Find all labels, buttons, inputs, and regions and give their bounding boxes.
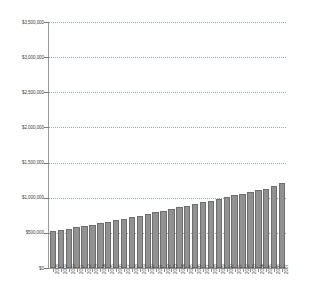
bar[interactable] [224,197,230,268]
x-axis-tick-label: 2030 [229,264,234,274]
x-axis-tick [132,268,133,272]
bar[interactable] [66,229,72,268]
x-axis-tick-label: 2008 [55,264,60,274]
bar[interactable] [208,201,214,268]
x-axis-tick [179,268,180,272]
x-axis-tick-label: 2024 [181,264,186,274]
x-axis-tick-label: 2015 [110,264,115,274]
bar[interactable] [89,225,95,268]
y-axis-tick [44,268,49,269]
x-axis-tick [171,268,172,272]
plot-area [49,22,286,268]
x-axis-tick [282,268,283,272]
x-axis-tick-label: 2019 [142,264,147,274]
x-axis-tick [69,268,70,272]
x-axis-tick [124,268,125,272]
x-axis-tick [116,268,117,272]
bar[interactable] [263,189,269,268]
x-axis-tick [258,268,259,272]
bar[interactable] [184,206,190,268]
x-axis-tick-label: 2034 [260,264,265,274]
x-axis-tick [85,268,86,272]
x-axis-tick-label: 2018 [134,264,139,274]
y-axis-tick [44,198,49,199]
x-axis-tick-label: 2028 [213,264,218,274]
y-axis-tick [44,92,49,93]
bar[interactable] [168,209,174,268]
bar[interactable] [50,231,56,268]
y-axis-tick-label: $1,000,000 [0,195,44,200]
x-axis-tick-label: 2010 [71,264,76,274]
bar[interactable] [239,194,245,268]
x-axis-tick [61,268,62,272]
x-axis-tick-label: 2020 [150,264,155,274]
bar[interactable] [255,190,261,268]
x-axis-tick [219,268,220,272]
x-axis-tick-label: 2035 [268,264,273,274]
bar[interactable] [152,212,158,268]
bar[interactable] [271,186,277,268]
x-axis-tick-label: 2036 [276,264,281,274]
bar[interactable] [97,223,103,268]
bar[interactable] [200,202,206,268]
x-axis-tick-label: 2023 [173,264,178,274]
x-axis-tick [140,268,141,272]
y-axis-tick [44,127,49,128]
x-axis-tick-label: 2033 [252,264,257,274]
x-axis-tick-label: 2009 [63,264,68,274]
x-axis-tick-label: 2029 [221,264,226,274]
bar[interactable] [113,220,119,268]
x-axis-tick [243,268,244,272]
bar[interactable] [192,204,198,268]
x-axis-tick-label: 2037 [284,264,289,274]
bar[interactable] [81,226,87,268]
x-axis-tick-label: 2021 [158,264,163,274]
x-axis-tick-label: 2032 [245,264,250,274]
bar[interactable] [145,214,151,268]
x-axis-tick [250,268,251,272]
bar[interactable] [137,216,143,268]
x-axis-tick [195,268,196,272]
y-axis-tick [44,57,49,58]
y-axis-tick-label: $2,500,000 [0,90,44,95]
x-axis-tick [187,268,188,272]
bar[interactable] [73,227,79,268]
x-axis-tick-label: 2027 [205,264,210,274]
x-axis-tick [227,268,228,272]
x-axis-tick [92,268,93,272]
y-axis-tick-label: $1,500,000 [0,160,44,165]
x-axis-tick [164,268,165,272]
bar[interactable] [176,207,182,268]
x-axis-tick-label: 2031 [237,264,242,274]
x-axis-tick-label: 2013 [94,264,99,274]
x-axis-tick-label: 2016 [118,264,123,274]
y-axis-tick-label: $0 [0,266,44,271]
y-axis-tick-label: $3,500,000 [0,20,44,25]
x-axis-tick [235,268,236,272]
x-axis-tick [108,268,109,272]
y-axis-tick [44,233,49,234]
y-axis-tick-label: $2,000,000 [0,125,44,130]
x-axis-tick [77,268,78,272]
x-axis-tick-label: 2011 [79,265,84,274]
x-axis-tick-label: 2014 [102,264,107,274]
bar[interactable] [279,183,285,268]
bar[interactable] [129,217,135,268]
bar[interactable] [216,199,222,268]
x-axis-tick-label: 2012 [87,264,92,274]
bar[interactable] [105,222,111,268]
x-axis-tick [203,268,204,272]
x-axis-tick-label: 2022 [166,264,171,274]
bar[interactable] [58,230,64,268]
bar[interactable] [231,195,237,268]
bar[interactable] [121,219,127,268]
bar[interactable] [247,192,253,268]
x-axis-tick [156,268,157,272]
y-axis-tick [44,22,49,23]
bar-series [49,22,286,268]
x-axis-tick [211,268,212,272]
x-axis-tick-label: 2025 [189,264,194,274]
bar[interactable] [160,211,166,268]
x-axis-tick [274,268,275,272]
x-axis-tick-label: 2017 [126,264,131,274]
